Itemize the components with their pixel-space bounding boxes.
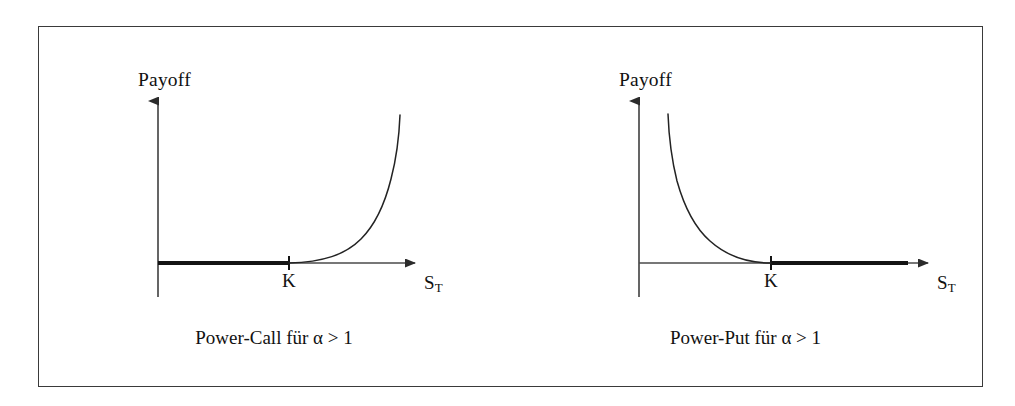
y-axis-title: Payoff — [138, 69, 191, 91]
x-tick-label-strike: K — [282, 270, 296, 292]
x-axis-title-base: S — [937, 272, 948, 293]
y-axis-title: Payoff — [619, 69, 672, 91]
x-axis-title: ST — [937, 272, 956, 296]
figure-root: Payoff K ST Power-Call für α > 1 — [0, 0, 1015, 406]
panel-caption-power-put: Power-Put für α > 1 — [509, 327, 982, 349]
x-axis-title-subscript: T — [435, 280, 443, 295]
x-axis-title-base: S — [424, 272, 435, 293]
payoff-curve — [668, 114, 771, 263]
x-axis-title: ST — [424, 272, 443, 296]
x-tick-label-strike: K — [764, 270, 778, 292]
panel-power-call: Payoff K ST Power-Call für α > 1 — [39, 27, 509, 388]
figure-frame: Payoff K ST Power-Call für α > 1 — [38, 26, 983, 387]
panel-caption-power-call: Power-Call für α > 1 — [39, 327, 509, 349]
power-put-plot — [509, 27, 982, 327]
x-axis-title-subscript: T — [948, 280, 956, 295]
payoff-curve — [289, 115, 400, 263]
panel-power-put: Payoff K ST Power-Put für α > 1 — [509, 27, 982, 388]
